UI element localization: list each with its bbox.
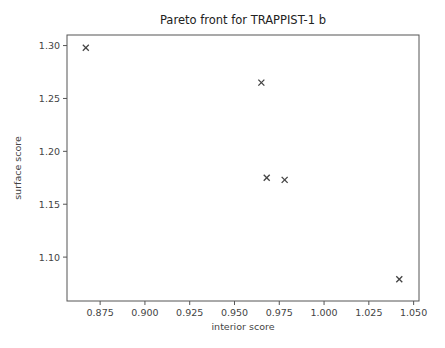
- x-tick-label: 0.900: [131, 307, 158, 318]
- x-marker-icon: [396, 276, 402, 282]
- y-axis-ticks: 1.101.151.201.251.30: [39, 40, 67, 263]
- x-tick-label: 0.875: [87, 307, 114, 318]
- y-tick-label: 1.20: [39, 146, 60, 157]
- y-tick-label: 1.30: [39, 40, 60, 51]
- data-points: [83, 45, 402, 283]
- x-tick-label: 1.000: [310, 307, 337, 318]
- x-tick-label: 1.050: [400, 307, 427, 318]
- x-marker-icon: [264, 175, 270, 181]
- y-tick-label: 1.25: [39, 93, 60, 104]
- y-tick-label: 1.10: [39, 252, 60, 263]
- x-marker-icon: [258, 80, 264, 86]
- y-axis-label: surface score: [12, 136, 23, 200]
- x-axis-ticks: 0.8750.9000.9250.9500.9751.0001.0251.050: [87, 301, 428, 318]
- x-axis-label: interior score: [211, 321, 274, 332]
- x-tick-label: 0.925: [176, 307, 203, 318]
- plot-frame: [67, 35, 419, 301]
- x-tick-label: 1.025: [355, 307, 382, 318]
- x-marker-icon: [282, 177, 288, 183]
- y-tick-label: 1.15: [39, 199, 60, 210]
- x-marker-icon: [83, 45, 89, 51]
- scatter-chart: Pareto front for TRAPPIST-1 b 0.8750.900…: [0, 0, 445, 348]
- x-tick-label: 0.975: [266, 307, 293, 318]
- x-tick-label: 0.950: [221, 307, 248, 318]
- chart-title: Pareto front for TRAPPIST-1 b: [160, 13, 326, 27]
